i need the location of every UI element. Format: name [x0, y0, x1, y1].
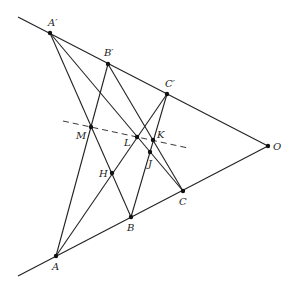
label-C-prime: C′ [165, 78, 176, 89]
point-B [129, 215, 133, 219]
point-H [110, 171, 114, 175]
projective-geometry-diagram: A′ B′ C′ O A B C M L K J H [0, 0, 293, 291]
label-B-prime: B′ [103, 47, 114, 58]
point-C [181, 189, 185, 193]
line-top-ray-AprimeO [18, 17, 268, 146]
points [48, 31, 270, 258]
label-J: J [146, 158, 153, 169]
label-B: B [126, 222, 134, 233]
point-L [135, 135, 139, 139]
label-A: A [51, 261, 59, 272]
point-O [266, 144, 270, 148]
label-K: K [156, 129, 165, 140]
line-Bprime-A [56, 64, 108, 256]
label-L: L [123, 137, 131, 148]
point-M [89, 125, 93, 129]
point-C-prime [165, 92, 169, 96]
point-labels: A′ B′ C′ O A B C M L K J H [47, 17, 281, 272]
label-M: M [75, 130, 87, 141]
label-H: H [98, 168, 108, 179]
label-A-prime: A′ [47, 17, 58, 28]
point-A-prime [48, 31, 52, 35]
point-B-prime [106, 62, 110, 66]
point-J [148, 150, 152, 154]
label-O: O [273, 141, 281, 152]
point-K [151, 138, 155, 142]
label-C: C [179, 196, 187, 207]
construction-lines [18, 17, 268, 276]
point-A [54, 254, 58, 258]
